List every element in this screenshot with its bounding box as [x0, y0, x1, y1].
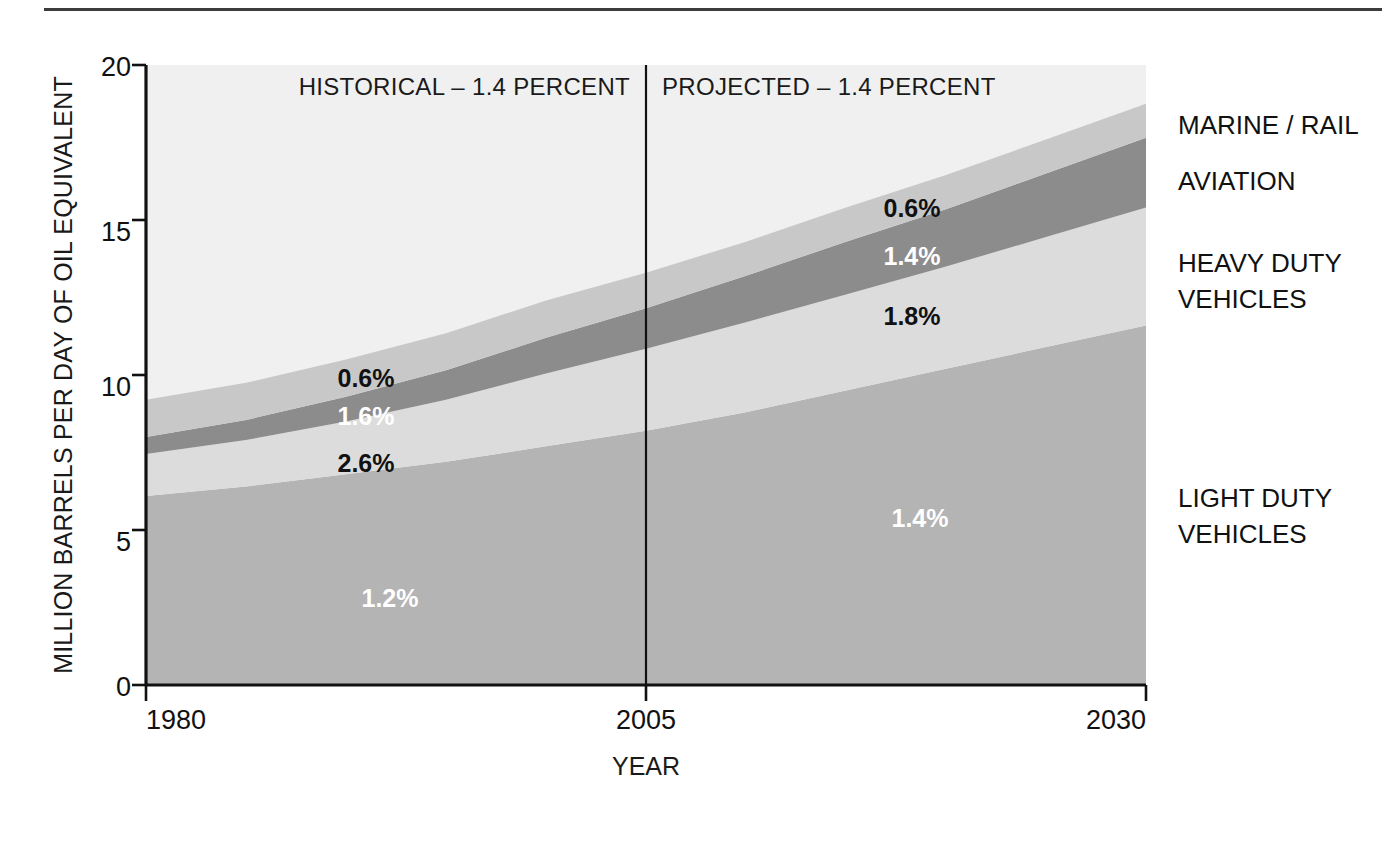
- x-tick-label-1980: 1980: [146, 705, 206, 735]
- y-axis-ticks: [132, 65, 146, 685]
- y-tick-label-0: 0: [116, 672, 131, 702]
- historical-header: HISTORICAL – 1.4 PERCENT: [299, 73, 630, 100]
- legend-label-marine-rail: MARINE / RAIL: [1178, 110, 1359, 140]
- projected-header: PROJECTED – 1.4 PERCENT: [662, 73, 996, 100]
- projected-light-duty-percent: 1.4%: [892, 504, 949, 532]
- top-divider-rule: [44, 8, 1382, 11]
- legend-label-light-duty-line1: LIGHT DUTY: [1178, 483, 1332, 513]
- y-axis-title: MILLION BARRELS PER DAY OF OIL EQUIVALEN…: [49, 76, 77, 674]
- x-axis-title: YEAR: [612, 752, 680, 780]
- projected-marine-rail-percent: 0.6%: [884, 194, 941, 222]
- x-axis-ticks: [146, 685, 1146, 701]
- historical-heavy-duty-percent: 2.6%: [338, 449, 395, 477]
- legend-label-heavy-duty-line1: HEAVY DUTY: [1178, 248, 1342, 278]
- projected-aviation-percent: 1.4%: [884, 242, 941, 270]
- historical-marine-rail-percent: 0.6%: [338, 364, 395, 392]
- legend-label-heavy-duty-line2: VEHICLES: [1178, 284, 1307, 314]
- legend-label-light-duty-line2: VEHICLES: [1178, 519, 1307, 549]
- y-tick-label-10: 10: [101, 372, 131, 402]
- x-tick-label-2005: 2005: [616, 705, 676, 735]
- historical-light-duty-percent: 1.2%: [362, 584, 419, 612]
- y-tick-label-20: 20: [101, 52, 131, 82]
- x-tick-label-2030: 2030: [1086, 705, 1146, 735]
- chart-figure: 20 15 10 5 0 1980 2005 2030 YEAR MILLION…: [0, 0, 1382, 841]
- projected-heavy-duty-percent: 1.8%: [884, 302, 941, 330]
- y-tick-label-15: 15: [101, 217, 131, 247]
- y-tick-label-5: 5: [116, 527, 131, 557]
- stacked-area-chart: 20 15 10 5 0 1980 2005 2030 YEAR MILLION…: [0, 0, 1382, 841]
- historical-aviation-percent: 1.6%: [338, 402, 395, 430]
- legend-label-aviation: AVIATION: [1178, 166, 1296, 196]
